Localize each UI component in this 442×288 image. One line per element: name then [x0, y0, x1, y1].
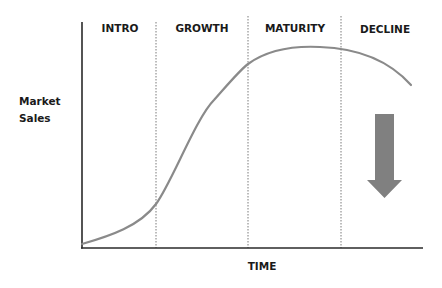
stage-label-growth: GROWTH — [175, 22, 228, 34]
x-axis-label: TIME — [248, 260, 277, 272]
down-arrow-icon — [367, 114, 402, 198]
sales-curve — [82, 47, 411, 244]
y-axis-label-line2: Sales — [19, 113, 51, 124]
stage-label-maturity: MATURITY — [265, 22, 326, 34]
stage-label-decline: DECLINE — [360, 23, 410, 35]
y-axis-label-line1: Market — [19, 96, 61, 107]
product-life-cycle-diagram: INTRO GROWTH MATURITY DECLINE TIME — [0, 0, 442, 288]
stage-label-intro: INTRO — [102, 22, 139, 34]
